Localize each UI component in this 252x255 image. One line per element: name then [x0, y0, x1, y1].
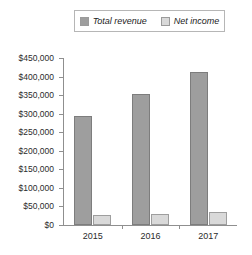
y-tick-mark	[59, 151, 63, 152]
y-tick-label: $200,000	[19, 147, 54, 156]
bar-group	[179, 58, 237, 225]
y-tick-mark	[59, 58, 63, 59]
y-tick-mark	[59, 77, 63, 78]
y-tick-mark	[59, 114, 63, 115]
legend-entry-net-income: Net income	[161, 17, 220, 26]
x-axis-group-separator	[179, 225, 180, 229]
bar-2017-net-income	[209, 212, 227, 225]
y-tick-mark	[59, 225, 63, 226]
y-tick-mark	[59, 188, 63, 189]
bar-2016-net-income	[151, 214, 169, 225]
bar-2015-net-income	[93, 215, 111, 225]
x-axis-line	[63, 225, 237, 226]
x-tick-label: 2016	[140, 232, 160, 241]
y-tick-label: $0	[45, 221, 54, 230]
y-tick-label: $250,000	[19, 128, 54, 137]
chart-legend: Total revenue Net income	[74, 10, 225, 32]
x-axis-group-separator	[122, 225, 123, 229]
bar-group	[64, 58, 122, 225]
legend-label-net-income: Net income	[174, 17, 220, 26]
y-tick-label: $400,000	[19, 72, 54, 81]
y-tick-mark	[59, 132, 63, 133]
legend-swatch-net-income	[161, 17, 170, 26]
legend-swatch-total-revenue	[80, 17, 89, 26]
x-tick-label: 2015	[83, 232, 103, 241]
bar-group	[122, 58, 180, 225]
legend-entry-total-revenue: Total revenue	[80, 17, 147, 26]
bar-2017-total-revenue	[190, 72, 208, 225]
legend-label-total-revenue: Total revenue	[93, 17, 147, 26]
plot-area	[64, 58, 237, 225]
y-tick-mark	[59, 206, 63, 207]
bar-2015-total-revenue	[74, 116, 92, 225]
plot-wrapper: $450,000$400,000$350,000$300,000$250,000…	[0, 52, 252, 255]
y-axis-labels: $450,000$400,000$350,000$300,000$250,000…	[0, 52, 58, 226]
bar-chart: Total revenue Net income $450,000$400,00…	[0, 0, 252, 255]
y-tick-mark	[59, 95, 63, 96]
y-tick-label: $450,000	[19, 54, 54, 63]
y-tick-label: $350,000	[19, 91, 54, 100]
y-tick-label: $150,000	[19, 165, 54, 174]
x-tick-label: 2017	[198, 232, 218, 241]
y-tick-label: $50,000	[23, 202, 54, 211]
y-tick-label: $300,000	[19, 109, 54, 118]
y-tick-mark	[59, 169, 63, 170]
bar-2016-total-revenue	[132, 94, 150, 225]
x-axis-labels: 201520162017	[64, 232, 237, 248]
y-tick-label: $100,000	[19, 184, 54, 193]
